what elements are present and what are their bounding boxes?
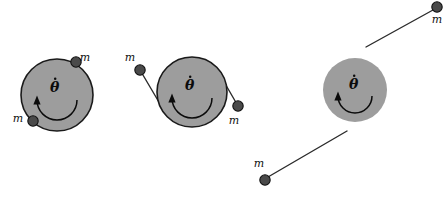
mass-label-mass-right: m: [229, 114, 239, 127]
diagram-canvas: θmmθmmθmm: [0, 0, 448, 197]
mass-label-mass-bottom-left: m: [13, 112, 23, 125]
mass-label-mass-top-right: m: [80, 51, 90, 64]
panel-partly-unwound: θmm: [125, 51, 243, 127]
mass-lower-left: [260, 175, 270, 185]
angular-velocity-label-0: θ: [50, 79, 60, 95]
angular-velocity-overdot-2: [353, 75, 356, 78]
panel-wound: θmm: [13, 51, 93, 131]
mass-left: [135, 65, 145, 75]
angular-velocity-label-2: θ: [349, 76, 359, 92]
mass-upper-right: [432, 2, 442, 12]
panel-fully-unwound: θmm: [254, 2, 442, 185]
panels-group: θmmθmmθmm: [13, 2, 442, 185]
string-mass-lower-left: [268, 131, 347, 177]
mass-right: [233, 101, 243, 111]
mass-label-mass-lower-left: m: [254, 157, 264, 170]
mass-label-mass-left: m: [125, 51, 135, 64]
string-mass-upper-right: [366, 10, 433, 47]
angular-velocity-overdot-1: [189, 76, 192, 79]
physics-diagram-figure: θmmθmmθmm: [0, 0, 448, 197]
mass-label-mass-upper-right: m: [432, 13, 442, 26]
mass-bottom-left: [28, 116, 38, 126]
angular-velocity-overdot-0: [54, 78, 57, 81]
angular-velocity-label-1: θ: [185, 77, 195, 93]
